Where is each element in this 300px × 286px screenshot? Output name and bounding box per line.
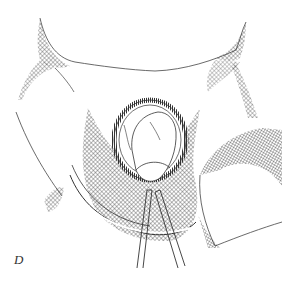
right-fold bbox=[198, 128, 282, 248]
ring-structure bbox=[114, 100, 186, 181]
surgical-illustration bbox=[0, 0, 300, 286]
left-fold bbox=[16, 112, 64, 212]
panel-label: D bbox=[14, 252, 23, 268]
